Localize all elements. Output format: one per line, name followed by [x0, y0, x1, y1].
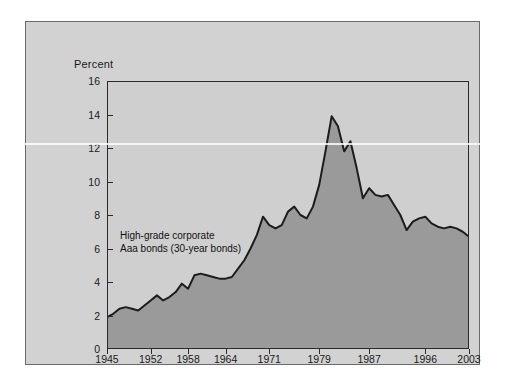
y-axis-tick-mark: [107, 316, 113, 317]
plot-area: [107, 81, 469, 349]
y-axis-tick-mark: [107, 249, 113, 250]
y-axis-tick-mark: [107, 115, 113, 116]
x-axis-tick-mark: [188, 349, 189, 354]
y-axis-tick-label: 8: [94, 209, 100, 221]
x-axis-tick-mark: [151, 349, 152, 354]
x-axis-tick-mark: [226, 349, 227, 354]
figure-frame: Percent 0246810121416 194519521958196419…: [25, 21, 480, 365]
y-axis-tick-label: 12: [88, 142, 100, 154]
x-axis-tick-label: 1971: [258, 353, 281, 365]
y-axis-tick-mark: [107, 148, 113, 149]
x-axis-tick-label: 1952: [139, 353, 162, 365]
series-annotation: High-grade corporate Aaa bonds (30-year …: [120, 229, 241, 255]
y-axis-tick-mark: [107, 215, 113, 216]
series-annotation-line-1: High-grade corporate: [120, 229, 241, 242]
x-axis-tick-label: 1987: [357, 353, 380, 365]
y-axis-tick-label: 10: [88, 176, 100, 188]
y-axis-tick-labels: 0246810121416: [72, 81, 100, 349]
x-axis-tick-mark: [469, 349, 470, 354]
x-axis-tick-label: 1964: [214, 353, 237, 365]
x-axis-tick-label: 2003: [457, 353, 480, 365]
y-axis-tick-label: 6: [94, 243, 100, 255]
x-axis-tick-label: 1958: [176, 353, 199, 365]
y-axis-tick-label: 2: [94, 310, 100, 322]
series-annotation-line-2: Aaa bonds (30-year bonds): [120, 242, 241, 255]
y-axis-tick-label: 4: [94, 276, 100, 288]
x-axis-tick-mark: [319, 349, 320, 354]
x-axis-tick-mark: [107, 349, 108, 354]
x-axis-tick-mark: [369, 349, 370, 354]
y-axis-title: Percent: [74, 58, 113, 70]
y-axis-tick-mark: [107, 282, 113, 283]
x-axis-tick-label: 1996: [414, 353, 437, 365]
x-axis-tick-mark: [269, 349, 270, 354]
x-axis-tick-mark: [425, 349, 426, 354]
y-axis-tick-label: 14: [88, 109, 100, 121]
area-series-svg: [107, 81, 469, 349]
y-axis-tick-label: 16: [88, 75, 100, 87]
x-axis-tick-label: 1945: [95, 353, 118, 365]
x-axis-tick-labels: 194519521958196419711979198719962003: [107, 353, 469, 369]
y-axis-tick-mark: [107, 182, 113, 183]
x-axis-tick-label: 1979: [308, 353, 331, 365]
